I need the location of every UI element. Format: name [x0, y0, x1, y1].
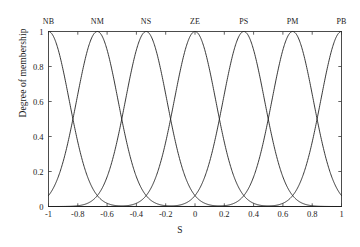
membership-curve-nb: [49, 32, 342, 207]
x-tick-label: -1: [45, 209, 52, 219]
membership-curve-ze: [49, 32, 342, 207]
y-tick-label: 0.2: [18, 167, 44, 177]
y-tick-label: 0.6: [18, 97, 44, 107]
membership-curve-pb: [49, 32, 342, 207]
x-tick-label: -0.6: [100, 209, 113, 219]
mf-label-ze: ZE: [190, 17, 200, 26]
membership-curve-pm: [49, 32, 342, 207]
y-tick-label: 0.8: [18, 62, 44, 72]
x-tick-label: 0: [193, 209, 197, 219]
mf-label-nb: NB: [43, 17, 55, 26]
x-tick-label: 1: [339, 209, 343, 219]
mf-label-nm: NM: [91, 17, 104, 26]
membership-curve-ps: [49, 32, 342, 207]
axis-frame: [49, 32, 342, 207]
mf-label-pm: PM: [287, 17, 299, 26]
x-tick-label: 0.2: [219, 209, 230, 219]
mf-label-pb: PB: [336, 17, 346, 26]
x-tick-label: -0.2: [159, 209, 172, 219]
membership-curve-nm: [49, 32, 342, 207]
x-tick-label: -0.4: [130, 209, 143, 219]
x-tick-label: 0.8: [307, 209, 318, 219]
y-tick-label: 1: [18, 27, 44, 37]
y-tick-label: 0: [18, 202, 44, 212]
fuzzy-membership-chart: Degree of membership S -1-0.8-0.6-0.4-0.…: [0, 0, 360, 247]
x-tick-label: 0.4: [248, 209, 259, 219]
mf-label-ns: NS: [141, 17, 152, 26]
mf-label-ps: PS: [239, 17, 248, 26]
x-axis-title: S: [0, 225, 360, 235]
x-tick-label: -0.8: [71, 209, 84, 219]
membership-curve-ns: [49, 32, 342, 207]
y-axis-title: Degree of membership: [18, 3, 28, 143]
x-tick-label: 0.6: [278, 209, 289, 219]
y-tick-label: 0.4: [18, 132, 44, 142]
